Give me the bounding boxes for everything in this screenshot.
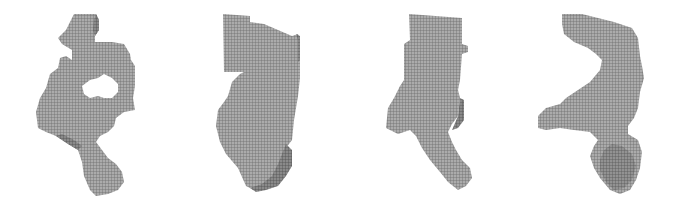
shape-1-body — [36, 14, 135, 196]
voxel-shape-4 — [538, 14, 644, 194]
voxel-shape-3 — [386, 14, 472, 190]
voxel-shape-1 — [36, 14, 135, 196]
voxel-figure — [0, 0, 677, 213]
voxel-figure-canvas — [0, 0, 677, 213]
voxel-shape-2 — [216, 14, 300, 192]
shape-3-body — [386, 14, 472, 190]
